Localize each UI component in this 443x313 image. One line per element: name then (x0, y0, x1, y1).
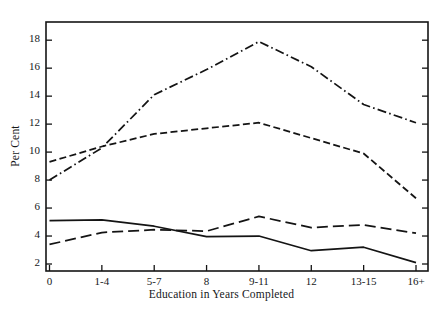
y-tick-label: 8 (14, 172, 40, 184)
y-tick-label: 12 (14, 116, 40, 128)
data-series-group (50, 42, 417, 263)
y-tick-label: 16 (14, 60, 40, 72)
y-tick-label: 4 (14, 228, 40, 240)
x-tick-label: 16+ (392, 275, 440, 287)
y-tick-label: 18 (14, 32, 40, 44)
series-solid (50, 220, 417, 263)
x-axis-title: Education in Years Completed (0, 288, 443, 300)
y-tick-label: 10 (14, 144, 40, 156)
x-tick-label: 8 (183, 275, 231, 287)
y-axis-ticks (46, 40, 428, 264)
plot-area (0, 0, 443, 313)
x-tick-label: 5-7 (130, 275, 178, 287)
y-tick-label: 6 (14, 200, 40, 212)
chart-figure: Per Cent Education in Years Completed 24… (0, 0, 443, 313)
y-tick-label: 2 (14, 256, 40, 268)
x-tick-label: 13-15 (340, 275, 388, 287)
series-dashed (50, 123, 417, 199)
x-tick-label: 12 (287, 275, 335, 287)
x-tick-label: 1-4 (78, 275, 126, 287)
x-tick-label: 0 (26, 275, 74, 287)
y-tick-label: 14 (14, 88, 40, 100)
x-tick-label: 9-11 (235, 275, 283, 287)
x-axis-ticks (50, 265, 417, 271)
series-dash-dot (50, 42, 417, 180)
